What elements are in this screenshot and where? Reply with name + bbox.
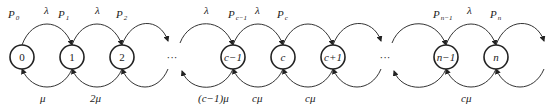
- arrival-rate-label: λ: [254, 4, 260, 16]
- service-arc: [446, 69, 496, 87]
- state-nodes: 012c−1cc+1n−1n: [10, 45, 508, 69]
- state-label: 2: [119, 51, 125, 63]
- state-node: 2: [110, 45, 134, 69]
- probability-label: Pn: [489, 8, 502, 22]
- state-node: c+1: [321, 45, 345, 69]
- service-arc: [22, 69, 72, 87]
- arrival-arc: [22, 24, 72, 45]
- service-arc: [182, 69, 233, 87]
- state-label: n−1: [437, 51, 455, 63]
- service-rate-label: (c−1)μ: [198, 92, 229, 105]
- service-rate-label: μ: [39, 92, 46, 104]
- arrival-arc: [446, 24, 496, 45]
- service-arc: [283, 69, 333, 87]
- service-arc: [72, 69, 122, 87]
- service-arc: [394, 69, 446, 87]
- arrival-arc: [180, 24, 233, 45]
- service-rate-label: cμ: [252, 92, 263, 104]
- state-label: n: [493, 51, 499, 63]
- arrival-arc: [72, 24, 122, 45]
- service-arc: [233, 69, 283, 87]
- state-node: n: [484, 45, 508, 69]
- service-rate-label: cμ: [305, 92, 316, 104]
- state-label: c−1: [224, 51, 242, 63]
- state-label: 1: [69, 51, 75, 63]
- arrival-arc: [496, 23, 544, 45]
- service-arc: [122, 69, 168, 87]
- state-label: c+1: [324, 51, 342, 63]
- arrival-arc: [392, 24, 446, 45]
- state-node: n−1: [434, 45, 458, 69]
- state-node: 0: [10, 45, 34, 69]
- ellipsis: ···: [380, 51, 391, 63]
- probability-label: Pc−1: [227, 8, 247, 22]
- arrival-arc: [333, 23, 381, 45]
- probability-label: P0: [7, 8, 20, 22]
- probability-label: P2: [115, 8, 128, 22]
- service-rate-label: 2μ: [90, 92, 102, 104]
- state-node: c: [271, 45, 295, 69]
- service-arc: [333, 69, 381, 87]
- arrival-arc: [283, 24, 333, 45]
- arrival-arc: [122, 23, 168, 45]
- arrival-rate-label: λ: [43, 4, 49, 16]
- arrival-arc: [233, 24, 283, 45]
- state-transition-diagram: 012c−1cc+1n−1n ······P0P1P2Pc−1PcPn−1Pnλ…: [0, 0, 552, 112]
- probability-label: Pc: [276, 8, 289, 22]
- arrival-rate-label: λ: [203, 4, 209, 16]
- arrival-rate-label: λ: [466, 4, 472, 16]
- arrival-rate-label: λ: [94, 4, 100, 16]
- service-arc: [496, 69, 544, 87]
- probability-label: Pn−1: [432, 8, 452, 22]
- ellipsis: ···: [167, 51, 178, 63]
- probability-label: P1: [57, 8, 69, 22]
- state-node: 1: [60, 45, 84, 69]
- service-rate-label: cμ: [461, 92, 472, 104]
- state-node: c−1: [221, 45, 245, 69]
- state-label: c: [281, 51, 286, 63]
- state-label: 0: [19, 51, 25, 63]
